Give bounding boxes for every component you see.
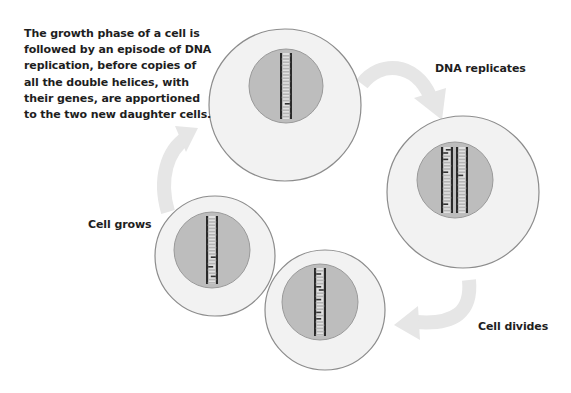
label-cell-grows: Cell grows (88, 218, 151, 231)
base-pair (458, 207, 466, 209)
base-pair (443, 187, 451, 189)
base-pair (443, 181, 451, 183)
daughter-cell-right (265, 250, 385, 370)
base-pair (282, 100, 290, 102)
base-pair (282, 87, 290, 89)
arrow-dna-replicates (362, 68, 446, 120)
base-pair (208, 228, 216, 230)
base-pair (282, 84, 290, 86)
base-pair (208, 224, 216, 226)
base-pair (316, 305, 324, 307)
grown-cell (209, 29, 361, 181)
label-cell-divides: Cell divides (478, 320, 548, 333)
base-pair (458, 210, 466, 212)
base-pair (316, 286, 321, 288)
base-pair (208, 250, 216, 252)
base-pair (282, 68, 290, 70)
nucleus (417, 142, 493, 218)
base-pair (443, 200, 451, 202)
daughter-cell-left (155, 196, 275, 316)
base-pair (282, 93, 290, 95)
base-pair (443, 207, 451, 209)
base-pair (316, 331, 324, 333)
base-pair (316, 302, 324, 304)
base-pair (458, 175, 463, 177)
base-pair (316, 318, 321, 320)
base-pair (458, 194, 466, 196)
base-pair (316, 324, 324, 326)
base-pair (443, 165, 451, 167)
base-pair (208, 231, 216, 233)
base-pair (458, 184, 466, 186)
base-pair (316, 280, 324, 282)
base-pair (446, 149, 451, 151)
base-pair (208, 244, 216, 246)
base-pair (282, 109, 290, 111)
base-pair (282, 55, 290, 57)
base-pair (458, 159, 466, 161)
caption-text: The growth phase of a cell is followed b… (24, 26, 214, 123)
dna-backbone (280, 53, 282, 119)
base-pair (458, 155, 466, 157)
base-pair (316, 312, 321, 314)
base-pair (443, 197, 451, 199)
base-pair (443, 203, 448, 205)
base-pair (208, 282, 216, 284)
base-pair (208, 266, 213, 268)
arrowhead-icon (394, 306, 420, 340)
base-pair (443, 184, 451, 186)
base-pair (458, 152, 466, 154)
base-pair (282, 58, 290, 60)
base-pair (282, 71, 290, 73)
base-pair (443, 194, 451, 196)
base-pair (316, 276, 324, 278)
base-pair (282, 65, 290, 67)
base-pair (316, 283, 324, 285)
base-pair (282, 113, 290, 115)
base-pair (316, 273, 321, 275)
base-pair (316, 321, 324, 323)
base-pair (316, 308, 324, 310)
base-pair (285, 103, 290, 105)
base-pair (458, 197, 466, 199)
base-pair (282, 97, 290, 99)
base-pair (282, 74, 290, 76)
base-pair (458, 168, 466, 170)
base-pair (208, 237, 216, 239)
base-pair (443, 175, 451, 177)
base-pair (458, 191, 466, 193)
base-pair (282, 116, 290, 118)
base-pair (208, 253, 216, 255)
base-pair (316, 270, 324, 272)
base-pair (443, 159, 448, 161)
base-pair (458, 165, 466, 167)
base-pair (443, 168, 451, 170)
base-pair (316, 296, 324, 298)
label-dna-replicates: DNA replicates (435, 62, 526, 75)
base-pair (208, 221, 216, 223)
base-pair (458, 171, 466, 173)
base-pair (458, 149, 466, 151)
base-pair (458, 203, 466, 205)
base-pair (443, 178, 451, 180)
base-pair (211, 276, 216, 278)
base-pair (208, 218, 216, 220)
base-pair (208, 279, 216, 281)
base-pair (443, 210, 451, 212)
base-pair (458, 200, 466, 202)
base-pair (282, 106, 290, 108)
base-pair (316, 328, 324, 330)
base-pair (208, 272, 216, 274)
arrow-cell-grows (164, 126, 198, 212)
base-pair (316, 292, 324, 294)
base-pair (282, 61, 290, 63)
base-pair (443, 191, 451, 193)
base-pair (208, 247, 216, 249)
arrow-cell-divides (394, 280, 469, 340)
base-pair (443, 162, 451, 164)
base-pair (319, 289, 324, 291)
base-pair (458, 187, 466, 189)
base-pair (458, 181, 466, 183)
base-pair (443, 171, 448, 173)
base-pair (282, 77, 290, 79)
